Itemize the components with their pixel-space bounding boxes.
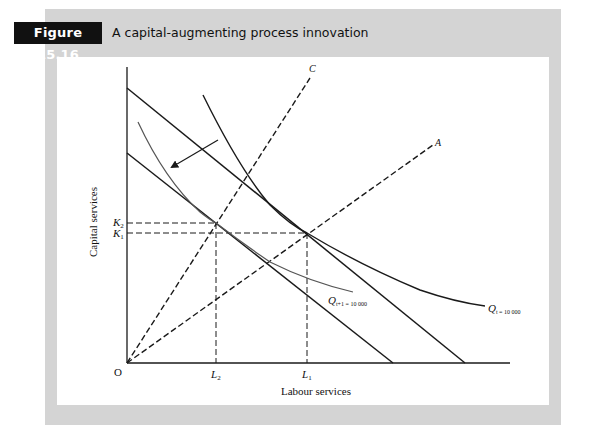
- l2-label: L2: [210, 368, 221, 382]
- x-axis-label: Labour services: [281, 385, 351, 397]
- isocost-upper: [127, 88, 465, 363]
- isoquant-qt1: [138, 122, 353, 292]
- isocost-lower: [127, 153, 393, 363]
- l1-label: L1: [301, 368, 312, 382]
- isoquant-qt: [203, 95, 485, 306]
- ray-a-label: A: [434, 137, 442, 148]
- ray-a: [127, 145, 433, 363]
- origin-label: O: [114, 366, 122, 378]
- qt-label: Qt = 10 000: [488, 302, 521, 315]
- ray-c-label: C: [309, 63, 316, 74]
- chart-svg: O L2 L1 K2 K1 C A Qt+1 = 10 000 Qt = 10 …: [0, 0, 589, 441]
- ray-c: [127, 78, 310, 363]
- y-axis-label: Capital services: [87, 187, 99, 257]
- qt1-label: Qt+1 = 10 000: [328, 294, 367, 307]
